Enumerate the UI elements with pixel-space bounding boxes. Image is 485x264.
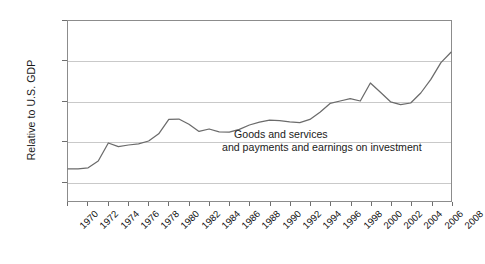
x-axis-tick-mark [391,202,392,206]
x-axis-tick-label: 2006 [442,208,465,231]
x-axis-tick-label: 2002 [401,208,424,231]
x-axis-tick-label: 1998 [361,208,384,231]
x-axis-tick-label: 1974 [118,208,141,231]
x-axis-tick-label: 1976 [138,208,161,231]
x-axis-tick-mark [87,202,88,206]
series-annotation-line-1: Goods and services [234,128,328,141]
y-axis-title: Relative to U.S. GDP [25,25,37,195]
x-axis-tick-mark [189,202,190,206]
x-axis-tick-mark [128,202,129,206]
x-axis-tick-mark [249,202,250,206]
x-axis-tick-mark [270,202,271,206]
x-axis-tick-mark [168,202,169,206]
x-axis-tick-label: 1994 [320,208,343,231]
x-axis-tick-mark [310,202,311,206]
plot-area [67,20,452,202]
x-axis-tick-mark [209,202,210,206]
x-axis-tick-mark [411,202,412,206]
x-axis-tick-label: 1972 [98,208,121,231]
x-axis-tick-label: 1970 [77,208,100,231]
x-axis-tick-label: 1988 [260,208,283,231]
x-axis-tick-mark [330,202,331,206]
x-axis-tick-label: 1978 [158,208,181,231]
x-axis-tick-mark [290,202,291,206]
x-axis-tick-mark [229,202,230,206]
x-axis-tick-label: 1992 [300,208,323,231]
x-axis-tick-mark [148,202,149,206]
x-axis-tick-label: 1984 [219,208,242,231]
series-annotation-line-2: and payments and earnings on investment [222,141,422,154]
x-axis-tick-label: 1980 [179,208,202,231]
x-axis-tick-mark [351,202,352,206]
x-axis-tick-label: 1986 [239,208,262,231]
x-axis-tick-mark [432,202,433,206]
x-axis-tick-label: 1990 [280,208,303,231]
x-axis-tick-label: 1982 [199,208,222,231]
series-layer [68,21,451,201]
x-axis-tick-mark [108,202,109,206]
x-axis-tick-label: 2000 [381,208,404,231]
x-axis-tick-label: 2004 [422,208,445,231]
x-axis-tick-mark [67,202,68,206]
x-axis-tick-mark [452,202,453,206]
x-axis-tick-label: 1996 [341,208,364,231]
x-axis-tick-label: 2008 [462,208,485,231]
x-axis-tick-mark [371,202,372,206]
line-series [68,21,451,201]
